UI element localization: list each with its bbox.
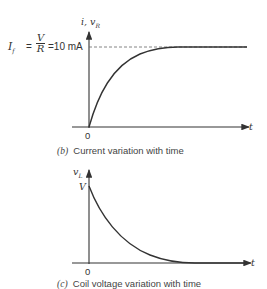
voltage-decay-curve [89,186,245,263]
figure-b-caption: (b) Current variation with time [57,145,184,156]
current-graph [72,32,249,128]
current-rise-curve [89,47,247,127]
voltage-origin-label: 0 [85,266,90,277]
current-y-axis-label: i, vR [81,16,100,29]
figure-c-caption: (c) Coil voltage variation with time [57,278,201,289]
voltage-x-axis-label: t [251,257,255,268]
voltage-graph [72,170,251,264]
final-current-equals: = [26,41,32,52]
voltage-y-axis-label: vL [73,166,82,179]
final-current-fraction: V R [36,33,45,54]
voltage-tick-label-v: V [79,181,86,192]
final-current-value: =10 mA [48,41,83,52]
final-current-symbol: If [8,40,15,54]
current-x-axis-label: t [249,121,253,132]
current-origin-label: 0 [85,130,90,141]
